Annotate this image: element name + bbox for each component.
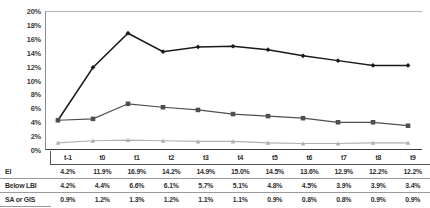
data-point-marker (266, 114, 271, 119)
table-cell: 13.6% (292, 165, 327, 179)
table-cell: 1.2% (85, 193, 120, 207)
column-header: t8 (361, 151, 396, 165)
data-point-marker (91, 117, 96, 122)
data-point-marker (336, 120, 341, 125)
column-header: t2 (154, 151, 189, 165)
series-below-lbi (56, 102, 411, 128)
table-cell: 14.2% (154, 165, 189, 179)
row-label: SA or GIS (0, 193, 51, 207)
table-corner-cell (0, 151, 51, 165)
data-point-marker (371, 63, 376, 68)
table-cell: 1.3% (120, 193, 155, 207)
data-point-marker (161, 105, 166, 110)
table-cell: 4.8% (258, 179, 293, 193)
data-point-marker (231, 44, 236, 49)
table-row: Below LBI4.2%4.4%6.6%6.1%5.7%5.1%4.8%4.5… (0, 179, 430, 193)
y-axis-tick-label: 8% (31, 90, 41, 99)
series-sa-or-gis (56, 138, 411, 146)
table-cell: 1.2% (154, 193, 189, 207)
column-header: t9 (396, 151, 430, 165)
column-header: t5 (258, 151, 293, 165)
y-axis-tick-label: 6% (31, 104, 41, 113)
series-ei (56, 31, 411, 123)
column-header: t-1 (51, 151, 86, 165)
table-header-row: t-1t0t1t2t3t4t5t6t7t8t9 (0, 151, 430, 165)
data-point-marker (406, 63, 411, 68)
data-point-marker (406, 123, 411, 128)
table-cell: 4.5% (292, 179, 327, 193)
data-point-marker (266, 47, 271, 52)
data-point-marker (196, 108, 201, 113)
row-label: Below LBI (0, 179, 51, 193)
y-axis-tick-label: 20% (27, 7, 41, 16)
line-chart: 20%18%16%14%12%10%8%6%4%2%0% (0, 0, 430, 156)
table-cell: 4.2% (51, 165, 86, 179)
table-cell: 0.9% (51, 193, 86, 207)
data-point-marker (371, 120, 376, 125)
column-header: t3 (189, 151, 224, 165)
table-cell: 16.9% (120, 165, 155, 179)
table-cell: 3.4% (396, 179, 430, 193)
y-axis-tick-label: 2% (31, 132, 41, 141)
y-axis-tick-label: 12% (27, 62, 41, 71)
table-cell: 12.2% (396, 165, 430, 179)
table-cell: 0.8% (292, 193, 327, 207)
table-cell: 3.9% (327, 179, 362, 193)
column-header: t4 (223, 151, 258, 165)
column-header: t6 (292, 151, 327, 165)
data-point-marker (336, 58, 341, 63)
chart-figure: 20%18%16%14%12%10%8%6%4%2%0% t-1t0t1t2t3… (0, 0, 430, 208)
table-cell: 12.2% (361, 165, 396, 179)
table-cell: 1.1% (189, 193, 224, 207)
table-cell: 1.1% (223, 193, 258, 207)
table-cell: 0.9% (258, 193, 293, 207)
table-cell: 12.9% (327, 165, 362, 179)
table-cell: 14.9% (189, 165, 224, 179)
plot-area (45, 11, 422, 150)
data-table: t-1t0t1t2t3t4t5t6t7t8t9EI4.2%11.9%16.9%1… (0, 151, 430, 207)
table-cell: 3.9% (361, 179, 396, 193)
table-cell: 15.0% (223, 165, 258, 179)
table-cell: 6.1% (154, 179, 189, 193)
table-cell: 4.2% (51, 179, 86, 193)
table-cell: 5.7% (189, 179, 224, 193)
data-point-marker (301, 116, 306, 121)
table-cell: 0.8% (327, 193, 362, 207)
data-point-marker (231, 112, 236, 117)
column-header: t0 (85, 151, 120, 165)
column-header: t7 (327, 151, 362, 165)
data-point-marker (196, 45, 201, 50)
table-cell: 11.9% (85, 165, 120, 179)
table-cell: 5.1% (223, 179, 258, 193)
table-cell: 0.9% (361, 193, 396, 207)
y-axis-tick-label: 4% (31, 118, 41, 127)
table-row: SA or GIS0.9%1.2%1.3%1.2%1.1%1.1%0.9%0.8… (0, 193, 430, 207)
y-axis-tick-label: 10% (27, 76, 41, 85)
plot-svg (46, 12, 422, 149)
table-cell: 4.4% (85, 179, 120, 193)
y-axis-tick-label: 14% (27, 48, 41, 57)
data-point-marker (126, 102, 131, 107)
row-label: EI (0, 165, 51, 179)
data-point-marker (56, 118, 61, 123)
data-point-marker (301, 53, 306, 58)
table-row: EI4.2%11.9%16.9%14.2%14.9%15.0%14.5%13.6… (0, 165, 430, 179)
y-axis: 20%18%16%14%12%10%8%6%4%2%0% (0, 0, 44, 156)
table-cell: 0.9% (396, 193, 430, 207)
y-axis-tick-label: 16% (27, 34, 41, 43)
column-header: t1 (120, 151, 155, 165)
table-cell: 6.6% (120, 179, 155, 193)
table-cell: 14.5% (258, 165, 293, 179)
y-axis-tick-label: 18% (27, 20, 41, 29)
